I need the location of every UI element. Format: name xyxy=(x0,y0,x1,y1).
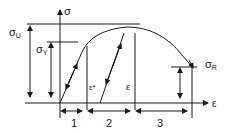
epsilon-axis-label: ε xyxy=(212,98,217,109)
plastic-strain-label: ε* xyxy=(89,83,96,92)
yield-label: σY xyxy=(36,43,48,56)
total-strain-label: ε xyxy=(126,82,130,92)
sigma-axis-label: σ xyxy=(64,5,71,17)
region-1-label: 1 xyxy=(71,117,77,129)
region-2-label: 2 xyxy=(106,117,112,129)
rupture-label: σR xyxy=(205,58,217,71)
region-3-label: 3 xyxy=(157,117,163,129)
unloading-arrow-down xyxy=(106,62,114,84)
loading-arrow-down xyxy=(66,73,73,89)
stress-strain-diagram: σ ε σU σY σR ε* ε 1 2 3 xyxy=(0,0,229,134)
ultimate-label: σU xyxy=(9,26,21,39)
